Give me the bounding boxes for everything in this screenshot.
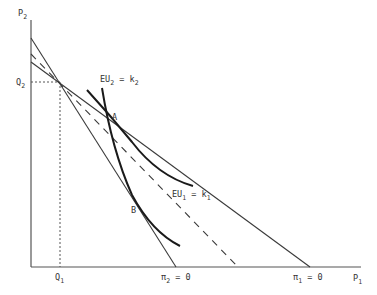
pi1-zero-label: π1 = 0 xyxy=(293,272,323,285)
eu1-label: EU1 = k1 xyxy=(172,189,211,202)
y-axis-label: P2 xyxy=(18,8,27,21)
pi1-zero-line xyxy=(31,62,310,267)
point-b-label: B xyxy=(131,205,136,215)
eu1-curve xyxy=(87,90,193,186)
x-axis-label: P1 xyxy=(353,273,362,286)
q2-label: Q2 xyxy=(16,77,25,90)
eu2-label: EU2 = k2 xyxy=(100,74,139,87)
pi2-zero-label: π2 = 0 xyxy=(161,272,191,285)
point-a-label: A xyxy=(112,112,117,122)
q1-label: Q1 xyxy=(55,272,64,285)
iso-profit-diagram: P2 P1 Q2 Q1 EU2 = k2 EU1 = k1 A B π2 = 0… xyxy=(0,0,377,295)
